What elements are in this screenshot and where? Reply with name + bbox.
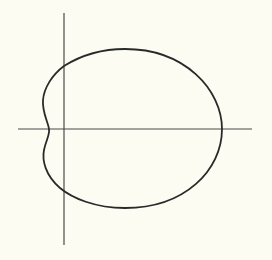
diagram-canvas xyxy=(0,0,272,260)
limacon-plot xyxy=(0,0,272,260)
